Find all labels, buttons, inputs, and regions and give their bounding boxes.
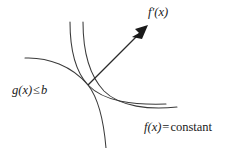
gradient-arrow-shaft [88,31,142,85]
optimization-diagram: f′(x) g(x)≤b f(x)=constant [0,0,240,148]
level-curve-outer [83,22,177,108]
gradient-label: f′(x) [148,6,168,19]
constraint-boundary-curve [25,58,106,148]
constraint-argument: (x) [18,83,32,97]
constraint-label: g(x)≤b [12,84,47,97]
level-argument: (x) [147,120,161,134]
gradient-argument: (x) [154,5,168,19]
level-curve-inner [70,22,166,104]
level-set-label: f(x)=constant [144,121,212,134]
gradient-arrow-head [132,25,148,39]
constraint-bound-symbol: b [41,83,47,97]
constraint-relation-symbol: ≤ [32,83,41,97]
level-value-text: constant [170,120,212,134]
